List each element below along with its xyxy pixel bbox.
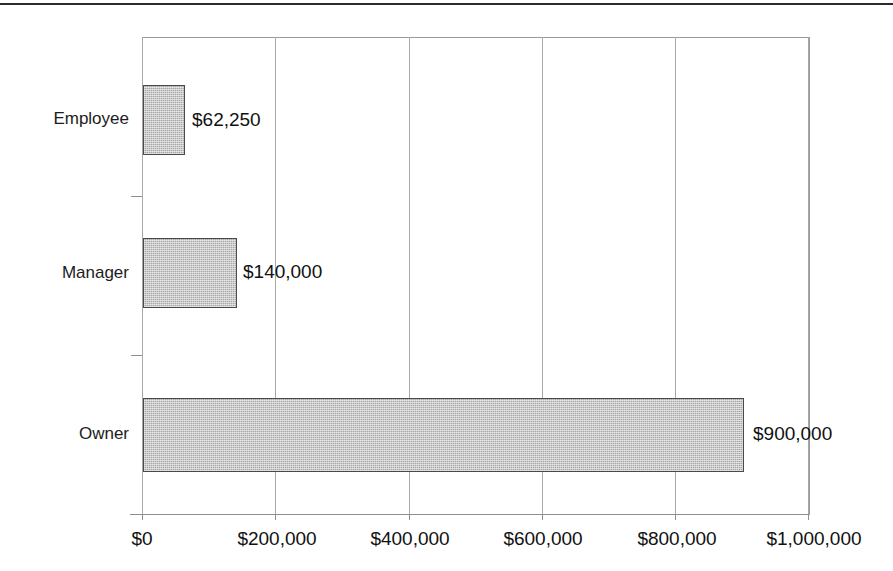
- value-label-owner: $900,000: [753, 423, 832, 445]
- category-label-manager: Manager: [0, 263, 129, 283]
- x-axis-line: [130, 514, 809, 515]
- horizontal-bar-chart: $62,250 $140,000 $900,000 Employee Manag…: [0, 0, 893, 571]
- y-tick-employee-manager: [131, 196, 142, 197]
- value-label-manager: $140,000: [243, 261, 322, 283]
- x-tick-600000: [542, 514, 543, 520]
- value-label-employee: $62,250: [192, 109, 261, 131]
- chart-page: $62,250 $140,000 $900,000 Employee Manag…: [0, 0, 893, 571]
- category-label-employee: Employee: [0, 109, 129, 129]
- x-tick-label-400000: $400,000: [370, 528, 449, 550]
- bar-manager[interactable]: [143, 238, 237, 308]
- x-tick-label-0: $0: [131, 528, 152, 550]
- category-label-owner: Owner: [0, 424, 129, 444]
- x-tick-label-600000: $600,000: [503, 528, 582, 550]
- bar-employee[interactable]: [143, 85, 185, 155]
- x-tick-800000: [675, 514, 676, 520]
- bar-owner[interactable]: [143, 398, 744, 472]
- y-tick-manager-owner: [131, 355, 142, 356]
- x-tick-1000000: [808, 514, 809, 520]
- x-tick-label-200000: $200,000: [237, 528, 316, 550]
- x-tick-200000: [275, 514, 276, 520]
- x-tick-400000: [409, 514, 410, 520]
- x-tick-0: [142, 514, 143, 520]
- x-tick-label-1000000: $1,000,000: [766, 528, 861, 550]
- x-tick-label-800000: $800,000: [637, 528, 716, 550]
